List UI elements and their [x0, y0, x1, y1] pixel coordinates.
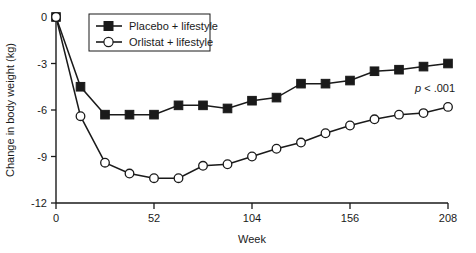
data-point-marker [101, 110, 110, 119]
weight-change-line-chart: 0-3-6-9-12 052104156208 Week Change in b… [0, 0, 476, 253]
data-point-marker [199, 101, 208, 110]
data-point-marker [272, 93, 281, 102]
data-point-marker [297, 79, 306, 88]
y-tick-label: -12 [31, 197, 47, 209]
data-point-marker [444, 59, 453, 68]
x-tick-label: 0 [53, 212, 59, 224]
open-circle-icon [104, 37, 113, 46]
y-tick-label: -9 [37, 151, 47, 163]
data-point-marker [223, 104, 232, 113]
y-axis-title: Change in body weight (kg) [4, 43, 16, 177]
chart-container: 0-3-6-9-12 052104156208 Week Change in b… [0, 0, 476, 253]
y-tick-label: 0 [41, 11, 47, 23]
data-point-marker [395, 65, 404, 74]
legend-label-orlistat: Orlistat + lifestyle [129, 36, 213, 48]
data-point-marker [444, 103, 453, 112]
data-point-marker [395, 110, 404, 119]
p-symbol: p [414, 82, 421, 94]
data-point-marker [174, 174, 183, 183]
x-tick-label: 104 [243, 212, 261, 224]
chart-legend: Placebo + lifestyle Orlistat + lifestyle [89, 14, 218, 51]
y-tick-label: -3 [37, 58, 47, 70]
data-point-marker [321, 79, 330, 88]
data-point-marker [346, 76, 355, 85]
data-point-marker [248, 152, 257, 161]
data-point-marker [370, 115, 379, 124]
data-point-marker [370, 67, 379, 76]
p-value-annotation: p < .001 [414, 82, 455, 94]
data-point-marker [223, 160, 232, 169]
data-point-marker [321, 129, 330, 138]
filled-square-icon [104, 22, 113, 31]
p-value-text: < .001 [421, 82, 455, 94]
data-point-marker [346, 121, 355, 130]
x-tick-label: 156 [341, 212, 359, 224]
data-point-marker [419, 109, 428, 118]
data-point-marker [76, 112, 85, 121]
data-point-marker [419, 62, 428, 71]
data-point-marker [101, 158, 110, 167]
x-axis-title: Week [238, 233, 266, 245]
data-point-marker [248, 96, 257, 105]
x-tick-label: 208 [439, 212, 457, 224]
data-point-marker [174, 101, 183, 110]
data-point-marker [199, 162, 208, 171]
data-point-marker [125, 110, 134, 119]
data-point-marker [52, 13, 61, 22]
data-point-marker [125, 169, 134, 178]
legend-label-placebo: Placebo + lifestyle [129, 20, 218, 32]
data-point-marker [76, 82, 85, 91]
chart-background [0, 0, 476, 253]
data-point-marker [297, 138, 306, 147]
x-tick-label: 52 [148, 212, 160, 224]
data-point-marker [150, 174, 159, 183]
data-point-marker [272, 144, 281, 153]
data-point-marker [150, 110, 159, 119]
y-tick-label: -6 [37, 104, 47, 116]
